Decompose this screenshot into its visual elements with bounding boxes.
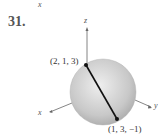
sphere <box>70 59 136 125</box>
endpoint-top <box>84 63 88 67</box>
x-axis-label: x <box>38 108 42 117</box>
endpoint-bottom <box>115 117 119 121</box>
z-axis-label: z <box>84 16 87 25</box>
x-arrow-icon <box>49 110 53 113</box>
x-axis <box>50 103 72 112</box>
z-arrow-icon <box>86 27 89 31</box>
point-label-top: (2, 1, 3) <box>50 56 79 66</box>
y-arrow-icon <box>148 105 152 109</box>
sphere-diagram <box>0 0 165 135</box>
y-axis-label: y <box>154 101 158 110</box>
point-label-bottom: (1, 3, −1) <box>108 124 142 134</box>
